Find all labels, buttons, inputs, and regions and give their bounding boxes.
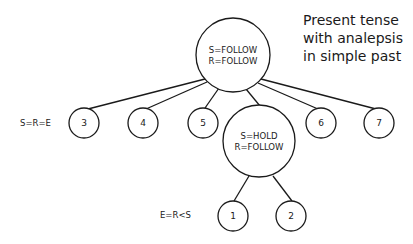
edge-root-to-6 [258, 83, 318, 109]
level1-label: S=R=E [20, 118, 51, 128]
node-2: 2 [276, 201, 306, 231]
edge-hold-to-2 [273, 176, 292, 201]
node-4-label: 4 [140, 118, 146, 128]
edge-root-to-5 [205, 88, 219, 108]
edge-hold-to-1 [234, 176, 249, 201]
edge-root-to-hold [246, 89, 260, 106]
node-6: 6 [306, 108, 336, 138]
node-2-label: 2 [288, 211, 294, 221]
node-5-label: 5 [200, 118, 206, 128]
level2-label: E=R<S [160, 210, 191, 220]
hold-node-line-2: R=FOLLOW [235, 142, 284, 152]
tense-tree-diagram: S=FOLLOW R=FOLLOW S=R=E 3 4 5 6 7 S=HOLD… [0, 0, 413, 244]
node-6-label: 6 [318, 118, 324, 128]
edge-root-to-7 [261, 79, 376, 109]
hold-node-line-1: S=HOLD [241, 131, 278, 141]
root-node: S=FOLLOW R=FOLLOW [196, 18, 270, 92]
root-node-line-1: S=FOLLOW [209, 45, 258, 55]
node-1-label: 1 [230, 211, 236, 221]
node-7: 7 [364, 108, 394, 138]
root-node-line-2: R=FOLLOW [209, 56, 258, 66]
node-4: 4 [128, 108, 158, 138]
hold-node: S=HOLD R=FOLLOW [223, 105, 295, 177]
node-5: 5 [188, 108, 218, 138]
node-3-label: 3 [81, 118, 87, 128]
node-3: 3 [69, 108, 99, 138]
node-7-label: 7 [376, 118, 382, 128]
node-1: 1 [218, 201, 248, 231]
edge-root-to-3 [88, 79, 205, 109]
